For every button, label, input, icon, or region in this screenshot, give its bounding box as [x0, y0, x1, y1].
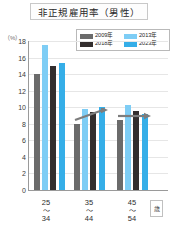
- y-tick-label: 10: [2, 104, 26, 111]
- legend-swatch-2009: [80, 34, 93, 39]
- y-tick-label: 16: [2, 54, 26, 61]
- x-tick-label-35〜44: 35〜44: [72, 199, 106, 224]
- bar-2009年-35〜44: [74, 124, 80, 190]
- chart-title: 非正規雇用率（男性）: [30, 3, 148, 20]
- x-label-bottom: 44: [85, 214, 93, 223]
- bar-2009年-25〜34: [34, 74, 40, 190]
- legend-item-2009: 2009年: [80, 32, 122, 40]
- x-tick-label-25〜34: 25〜34: [29, 199, 63, 224]
- y-tick-label: 8: [2, 120, 26, 127]
- chart-container: 非正規雇用率（男性） 2009年 2013年 2018年 2023年 （%） 1…: [0, 0, 174, 234]
- legend-swatch-2013: [124, 34, 137, 39]
- x-label-bottom: 54: [128, 214, 136, 223]
- bar-2018年-25〜34: [50, 66, 56, 190]
- trend-arrow-up: [74, 108, 108, 122]
- y-tick-label: 12: [2, 87, 26, 94]
- bar-2018年-45〜54: [133, 111, 139, 190]
- x-label-top: 45: [128, 198, 136, 207]
- x-label-bottom: 34: [42, 214, 50, 223]
- x-axis-labels: 25〜3435〜4445〜54: [0, 191, 174, 234]
- y-tick-label: 2: [2, 170, 26, 177]
- y-tick-label: 14: [2, 71, 26, 78]
- bar-2013年-25〜34: [42, 45, 48, 190]
- bar-2023年-25〜34: [59, 63, 65, 190]
- y-tick-label: 4: [2, 153, 26, 160]
- y-tick-label: 18: [2, 38, 26, 45]
- bar-2023年-45〜54: [142, 114, 148, 190]
- legend-item-2013: 2013年: [124, 32, 166, 40]
- bar-2018年-35〜44: [90, 112, 96, 190]
- x-axis-unit-box: 歳: [150, 200, 163, 217]
- trend-arrow-flat: [117, 111, 151, 121]
- legend-label-2009: 2009年: [95, 33, 113, 39]
- bar-2009年-45〜54: [117, 120, 123, 190]
- legend-label-2013: 2013年: [139, 33, 157, 39]
- x-label-top: 25: [42, 198, 50, 207]
- y-tick-label: 6: [2, 137, 26, 144]
- x-label-top: 35: [85, 198, 93, 207]
- x-tick-label-45〜54: 45〜54: [115, 199, 149, 224]
- plot-area: [28, 41, 168, 191]
- bar-group-25〜34: [34, 41, 67, 190]
